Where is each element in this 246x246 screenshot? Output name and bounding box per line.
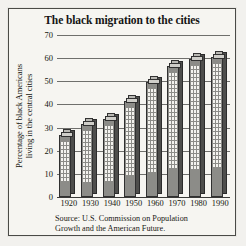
y-tick-label-70: 70 bbox=[45, 31, 54, 40]
bar-series bbox=[57, 35, 230, 197]
y-tick-label-30: 30 bbox=[45, 123, 54, 132]
bar-face-1960 bbox=[146, 82, 158, 197]
y-tick-label-0: 0 bbox=[49, 193, 53, 202]
chart-frame: The black migration to the cities Percen… bbox=[8, 8, 236, 236]
bar-cap-1970 bbox=[171, 60, 179, 64]
bar-face-1980 bbox=[189, 59, 201, 197]
bar-1990 bbox=[211, 54, 227, 197]
chart-canvas: The black migration to the cities Percen… bbox=[9, 9, 235, 235]
y-tick-label-60: 60 bbox=[45, 54, 54, 63]
source-line-1: Source: U.S. Commission on Population bbox=[55, 214, 231, 224]
x-axis-tick-labels: 19201930194019501960197019801990 bbox=[57, 199, 233, 211]
bar-cap-1980 bbox=[193, 53, 201, 57]
bar-face-1990 bbox=[211, 57, 223, 197]
bar-1950 bbox=[124, 98, 140, 198]
bar-windows-1960 bbox=[148, 88, 156, 195]
bar-face-1970 bbox=[167, 66, 179, 197]
x-tick-label-1940: 1940 bbox=[104, 199, 121, 208]
bar-1970 bbox=[167, 63, 183, 197]
bar-windows-1940 bbox=[105, 125, 113, 195]
bar-cap-1940 bbox=[107, 113, 115, 117]
source-line-2: Growth and the American Future. bbox=[55, 224, 231, 234]
y-tick-label-20: 20 bbox=[45, 146, 54, 155]
bar-1980 bbox=[189, 56, 205, 197]
y-tick-label-40: 40 bbox=[45, 100, 54, 109]
bar-cap-1920 bbox=[63, 129, 71, 133]
source-note: Source: U.S. Commission on Population Gr… bbox=[55, 214, 231, 234]
bar-cap-1960 bbox=[150, 76, 158, 80]
bar-face-1940 bbox=[103, 119, 115, 197]
x-tick-label-1920: 1920 bbox=[60, 199, 77, 208]
x-tick-label-1990: 1990 bbox=[212, 199, 229, 208]
bar-1940 bbox=[103, 116, 119, 197]
y-tick-label-10: 10 bbox=[45, 170, 54, 179]
bar-face-1930 bbox=[81, 124, 93, 197]
x-tick-label-1950: 1950 bbox=[125, 199, 142, 208]
bar-windows-1970 bbox=[169, 72, 177, 195]
x-tick-label-1960: 1960 bbox=[147, 199, 164, 208]
bar-1960 bbox=[146, 79, 162, 197]
bar-cap-1950 bbox=[128, 95, 136, 99]
bar-face-1920 bbox=[59, 135, 71, 197]
bar-windows-1920 bbox=[61, 141, 69, 195]
bar-windows-1990 bbox=[213, 63, 221, 195]
gridline-0 bbox=[57, 197, 230, 198]
bar-windows-1950 bbox=[126, 107, 134, 196]
plot-area bbox=[57, 35, 230, 197]
x-tick-label-1930: 1930 bbox=[82, 199, 99, 208]
y-tick-label-50: 50 bbox=[45, 77, 54, 86]
y-axis-tick-labels: 010203040506070 bbox=[31, 35, 55, 197]
bar-1920 bbox=[59, 132, 75, 197]
bar-1930 bbox=[81, 121, 97, 197]
x-tick-label-1970: 1970 bbox=[169, 199, 186, 208]
x-tick-label-1980: 1980 bbox=[190, 199, 207, 208]
bar-windows-1930 bbox=[83, 130, 91, 195]
bar-face-1950 bbox=[124, 101, 136, 198]
bar-cap-1990 bbox=[215, 51, 223, 55]
y-axis-title-line-1: Percentage of black Americans bbox=[14, 64, 24, 168]
bar-cap-1930 bbox=[85, 118, 93, 122]
bar-windows-1980 bbox=[191, 65, 199, 195]
chart-title: The black migration to the cities bbox=[9, 14, 235, 26]
